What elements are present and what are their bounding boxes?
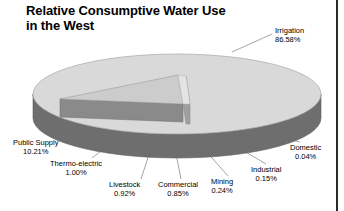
slice-label-commercial-value: 0.85% <box>158 190 198 199</box>
slice-label-livestock-value: 0.92% <box>109 190 140 199</box>
leader-line-irrigation <box>232 34 272 52</box>
slice-label-commercial: Commercial 0.85% <box>158 181 198 198</box>
slice-label-thermo-electric-value: 1.00% <box>50 169 102 178</box>
slice-label-irrigation: Irrigation 86.58% <box>275 27 304 44</box>
slice-label-industrial-value: 0.15% <box>251 175 281 184</box>
slice-label-livestock: Livestock 0.92% <box>109 181 140 198</box>
slice-label-mining: Mining 0.24% <box>211 178 233 195</box>
slice-label-mining-value: 0.24% <box>211 187 233 196</box>
slice-label-industrial: Industrial 0.15% <box>251 166 281 183</box>
slice-label-domestic-value: 0.04% <box>290 153 321 162</box>
slice-label-domestic: Domestic 0.04% <box>290 144 321 161</box>
slice-label-irrigation-value: 86.58% <box>275 36 304 45</box>
slice-label-public-supply: Public Supply 10.21% <box>13 139 58 156</box>
slice-label-public-supply-value: 10.21% <box>13 148 58 157</box>
slice-label-thermo-electric: Thermo-electric 1.00% <box>50 160 102 177</box>
chart-screenshot: Relative Consumptive Water Use in the We… <box>0 0 344 211</box>
